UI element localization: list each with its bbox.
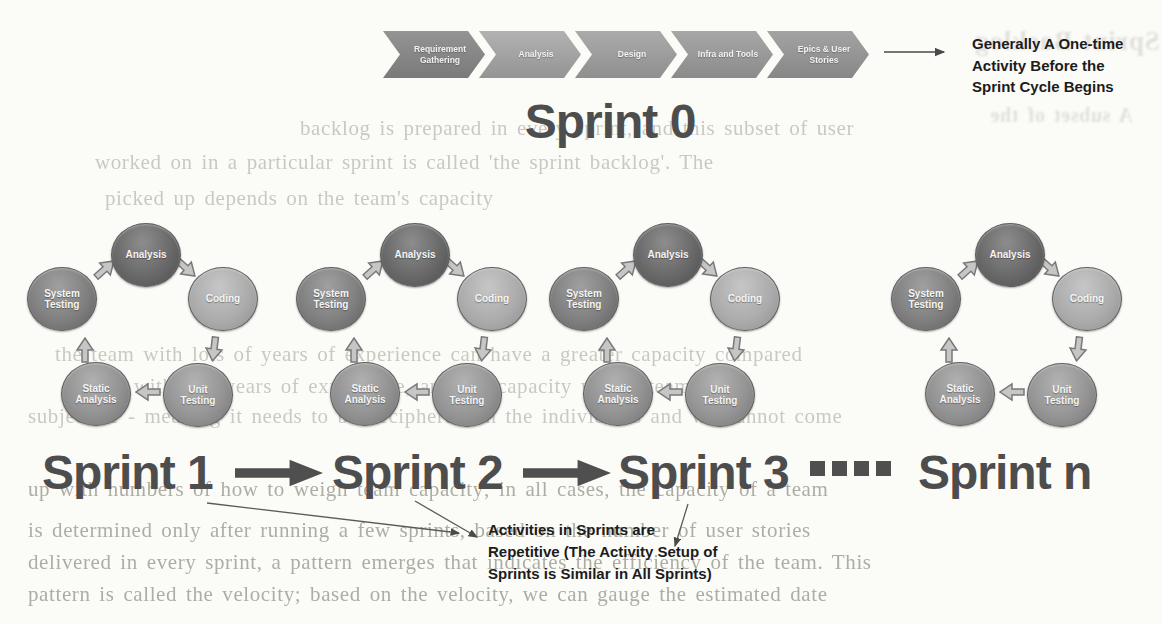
note-line: Generally A One-time	[972, 33, 1157, 55]
stage-label: Analysis	[387, 249, 443, 261]
sprint-n-label: Sprint n	[918, 445, 1091, 500]
stage-label: Unit Testing	[692, 384, 748, 407]
cycle-stage-static-analysis: Static Analysis	[583, 362, 653, 426]
ellipsis-square	[876, 461, 891, 476]
process-step-requirement-gathering: Requirement Gathering	[383, 31, 485, 78]
cycle-stage-coding: Coding	[710, 267, 780, 331]
ghost-text-line: worked on in a particular sprint is call…	[95, 150, 714, 175]
ghost-text-line: pattern is called the velocity; based on…	[28, 582, 828, 607]
stage-label: Analysis	[982, 249, 1038, 261]
process-step-label: Analysis	[488, 49, 572, 59]
stage-label: System Testing	[556, 288, 612, 311]
cycle-stage-analysis: Analysis	[633, 223, 703, 287]
stage-label: Unit Testing	[1034, 384, 1090, 407]
stage-label: System Testing	[898, 288, 954, 311]
note-line: Repetitive (The Activity Setup of	[488, 541, 717, 563]
stage-label: Coding	[717, 293, 773, 305]
stage-label: Static Analysis	[932, 383, 988, 406]
cycle-arrow-icon	[724, 335, 747, 363]
stage-label: Analysis	[640, 249, 696, 261]
note-line: Activities in Sprints are	[488, 519, 717, 541]
cycle-stage-unit-testing: Unit Testing	[163, 363, 233, 427]
stage-label: System Testing	[303, 288, 359, 311]
sprint-cycle-2: Analysis Coding Unit Testing Static Anal…	[297, 226, 547, 438]
ellipsis-square	[810, 461, 825, 476]
sprint-cycle-n: Analysis Coding Unit Testing Static Anal…	[892, 226, 1142, 438]
cycle-stage-coding: Coding	[188, 267, 258, 331]
stage-label: Static Analysis	[337, 383, 393, 406]
ghost-text-line: picked up depends on the team's capacity	[105, 186, 494, 211]
process-step-infra-and-tools: Infra and Tools	[671, 31, 773, 78]
cycle-stage-analysis: Analysis	[380, 223, 450, 287]
cycle-stage-analysis: Analysis	[111, 223, 181, 287]
process-step-label: Design	[584, 49, 668, 59]
cycle-stage-system-testing: System Testing	[296, 267, 366, 331]
sprint-3-label: Sprint 3	[618, 445, 789, 500]
ghost-text-line: delivered in every sprint, a pattern eme…	[28, 550, 872, 575]
cycle-arrow-icon	[999, 382, 1025, 402]
ghost-text-line: A subset of the	[990, 104, 1133, 127]
process-step-label: Epics & User Stories	[776, 44, 860, 64]
sprint-0-label: Sprint 0	[420, 94, 800, 149]
sprint-cycle-3: Analysis Coding Unit Testing Static Anal…	[550, 226, 800, 438]
sprint-2-label: Sprint 2	[332, 445, 503, 500]
process-step-design: Design	[575, 31, 677, 78]
ellipsis-square	[854, 461, 869, 476]
cycle-stage-unit-testing: Unit Testing	[685, 363, 755, 427]
cycle-arrow-icon	[75, 337, 95, 363]
stage-label: Coding	[195, 293, 251, 305]
cycle-stage-static-analysis: Static Analysis	[925, 362, 995, 426]
sprint-cycle-1: Analysis Coding Unit Testing Static Anal…	[28, 226, 278, 438]
cycle-arrow-icon	[202, 335, 225, 363]
process-step-epics-user-stories: Epics & User Stories	[767, 31, 869, 78]
process-step-label: Requirement Gathering	[392, 44, 476, 64]
repetitive-sprints-note: Activities in Sprints are Repetitive (Th…	[488, 519, 717, 585]
stage-label: Static Analysis	[68, 383, 124, 406]
one-time-activity-note: Generally A One-time Activity Before the…	[972, 33, 1157, 98]
cycle-arrow-icon	[1066, 335, 1089, 363]
cycle-stage-system-testing: System Testing	[27, 267, 97, 331]
note-line: Sprint Cycle Begins	[972, 76, 1157, 98]
cycle-stage-coding: Coding	[1052, 267, 1122, 331]
cycle-stage-static-analysis: Static Analysis	[330, 362, 400, 426]
cycle-arrow-icon	[404, 382, 430, 402]
cycle-arrow-icon	[135, 382, 161, 402]
stage-label: Coding	[464, 293, 520, 305]
cycle-stage-static-analysis: Static Analysis	[61, 362, 131, 426]
note-line: Sprints is Similar in All Sprints)	[488, 563, 717, 585]
stage-label: Static Analysis	[590, 383, 646, 406]
stage-label: Unit Testing	[170, 384, 226, 407]
process-step-label: Infra and Tools	[680, 49, 764, 59]
cycle-stage-unit-testing: Unit Testing	[1027, 363, 1097, 427]
stage-label: System Testing	[34, 288, 90, 311]
cycle-stage-system-testing: System Testing	[891, 267, 961, 331]
ellipsis-square	[832, 461, 847, 476]
stage-label: Coding	[1059, 293, 1115, 305]
cycle-arrow-icon	[344, 337, 364, 363]
ellipsis-squares	[810, 461, 891, 476]
cycle-arrow-icon	[597, 337, 617, 363]
cycle-stage-system-testing: System Testing	[549, 267, 619, 331]
cycle-stage-unit-testing: Unit Testing	[432, 363, 502, 427]
process-step-analysis: Analysis	[479, 31, 581, 78]
cycle-arrow-icon	[939, 337, 959, 363]
cycle-arrow-icon	[657, 382, 683, 402]
note-line: Activity Before the	[972, 55, 1157, 77]
cycle-arrow-icon	[471, 335, 494, 363]
stage-label: Analysis	[118, 249, 174, 261]
sprint-1-label: Sprint 1	[42, 445, 213, 500]
pre-sprint-process-bar: Requirement Gathering Analysis Design In…	[383, 31, 883, 78]
cycle-stage-coding: Coding	[457, 267, 527, 331]
book-page-figure: backlog is prepared in every sprint, and…	[0, 0, 1162, 624]
cycle-stage-analysis: Analysis	[975, 223, 1045, 287]
stage-label: Unit Testing	[439, 384, 495, 407]
